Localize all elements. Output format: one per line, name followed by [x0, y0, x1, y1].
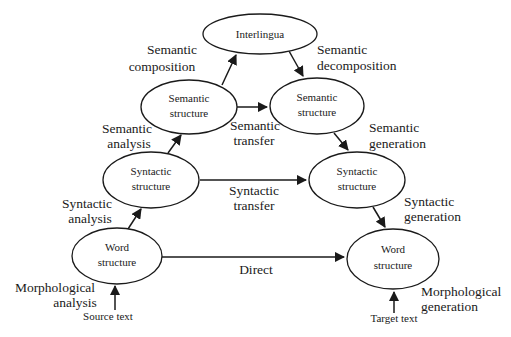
- label-syntactic-transfer: Syntactic transfer: [229, 183, 279, 213]
- label-syntactic-generation: Syntactic generation: [404, 194, 461, 224]
- semantic-structure-source-line1: Semantic: [169, 92, 210, 104]
- syntactic-structure-source-line1: Syntactic: [131, 165, 172, 177]
- interlingua-label: Interlingua: [236, 28, 284, 40]
- label-semantic-composition: Semantic composition: [129, 42, 198, 74]
- label-semantic-transfer-line2: transfer: [233, 133, 275, 148]
- label-semantic-analysis-line1: Semantic: [102, 121, 152, 136]
- edge-syntactic-generation: [373, 207, 385, 227]
- label-syntactic-generation-line1: Syntactic: [404, 194, 454, 209]
- edge-semantic-generation: [334, 133, 348, 150]
- mt-pyramid-diagram: Interlingua Semantic structure Semantic …: [0, 0, 511, 337]
- label-morphological-analysis-line1: Morphological: [15, 280, 95, 295]
- label-morphological-generation-line1: Morphological: [421, 284, 501, 299]
- label-semantic-decomposition: Semantic decomposition: [317, 42, 397, 73]
- node-syntactic-structure-source: Syntactic structure: [103, 152, 199, 208]
- syntactic-structure-target-line2: structure: [338, 180, 377, 192]
- word-structure-source-line2: structure: [98, 256, 137, 268]
- label-semantic-decomposition-line1: Semantic: [317, 42, 367, 57]
- edge-semantic-decomposition: [289, 51, 303, 76]
- syntactic-structure-source-line2: structure: [132, 180, 171, 192]
- node-interlingua: Interlingua: [203, 14, 317, 54]
- word-structure-target-line2: structure: [374, 259, 413, 271]
- word-structure-target-line1: Word: [381, 243, 406, 255]
- edge-semantic-analysis: [168, 135, 181, 153]
- semantic-structure-target-line2: structure: [298, 106, 337, 118]
- label-direct-line1: Direct: [239, 262, 273, 277]
- label-semantic-analysis-line2: analysis: [107, 136, 151, 151]
- source-text-label: Source text: [83, 310, 133, 322]
- label-syntactic-analysis: Syntactic analysis: [62, 196, 112, 226]
- node-semantic-structure-target: Semantic structure: [270, 78, 364, 134]
- label-semantic-generation-line2: generation: [369, 136, 426, 151]
- semantic-structure-target-line1: Semantic: [297, 91, 338, 103]
- word-structure-source-line1: Word: [105, 241, 130, 253]
- label-morphological-generation: Morphological generation: [421, 284, 501, 314]
- label-syntactic-analysis-line1: Syntactic: [62, 196, 112, 211]
- label-semantic-analysis: Semantic analysis: [102, 121, 152, 151]
- label-semantic-generation-line1: Semantic: [369, 120, 419, 135]
- label-semantic-composition-line1: Semantic: [147, 42, 197, 57]
- node-semantic-structure-source: Semantic structure: [141, 80, 237, 134]
- label-semantic-composition-line2: composition: [129, 59, 196, 74]
- label-semantic-transfer: Semantic transfer: [230, 118, 280, 148]
- edge-syntactic-analysis: [128, 209, 141, 229]
- label-semantic-transfer-line1: Semantic: [230, 118, 280, 133]
- label-syntactic-transfer-line2: transfer: [233, 198, 275, 213]
- label-morphological-analysis-line2: analysis: [53, 295, 97, 310]
- node-syntactic-structure-target: Syntactic structure: [309, 152, 405, 208]
- node-word-structure-source: Word structure: [72, 228, 162, 284]
- label-morphological-generation-line2: generation: [421, 299, 478, 314]
- label-syntactic-analysis-line2: analysis: [68, 211, 112, 226]
- target-text-label: Target text: [371, 312, 418, 324]
- label-syntactic-generation-line2: generation: [404, 209, 461, 224]
- label-direct: Direct: [239, 262, 273, 277]
- node-word-structure-target: Word structure: [347, 229, 439, 289]
- syntactic-structure-target-line1: Syntactic: [337, 165, 378, 177]
- label-syntactic-transfer-line1: Syntactic: [229, 183, 279, 198]
- edge-semantic-composition: [222, 55, 236, 85]
- label-morphological-analysis: Morphological analysis: [15, 280, 97, 310]
- label-semantic-generation: Semantic generation: [369, 120, 426, 151]
- semantic-structure-source-line2: structure: [170, 107, 209, 119]
- label-semantic-decomposition-line2: decomposition: [317, 58, 397, 73]
